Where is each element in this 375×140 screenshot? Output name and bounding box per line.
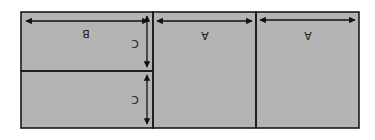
label-a-right: A: [304, 29, 312, 42]
panel-dimension-diagram: A A B C C: [0, 0, 375, 140]
label-c-top: C: [131, 37, 139, 50]
label-b: B: [82, 27, 90, 40]
label-a-middle: A: [201, 29, 209, 42]
label-c-bottom: C: [131, 93, 139, 106]
